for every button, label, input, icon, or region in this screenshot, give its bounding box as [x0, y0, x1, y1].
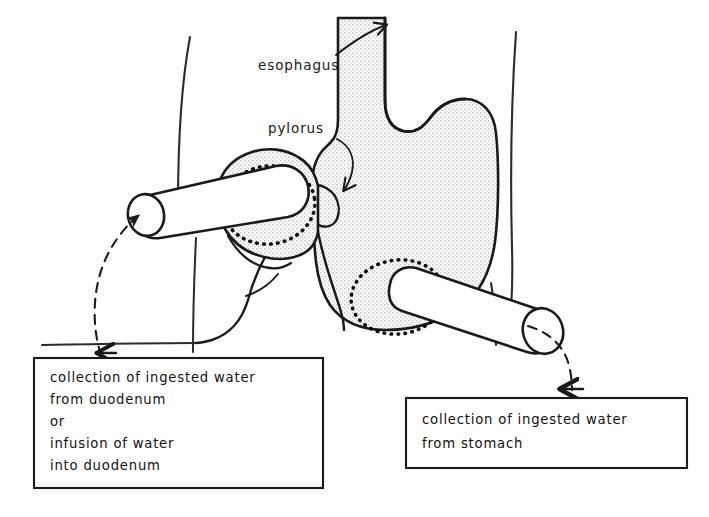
duodenum-callout-line-1: collection of ingested water	[50, 370, 256, 385]
duodenum-callout-connector	[95, 216, 138, 370]
duodenum-callout-line-3: or	[50, 414, 65, 429]
duodenum-callout-box[interactable]: collection of ingested water from duoden…	[34, 358, 323, 488]
duodenum-callout-line-5: into duodenum	[50, 458, 161, 473]
stomach-callout-line-1: collection of ingested water	[422, 412, 628, 427]
duodenum-callout-line-2: from duodenum	[50, 392, 166, 407]
duodenum-callout-line-4: infusion of water	[50, 436, 174, 451]
esophagus-label: esophagus	[258, 57, 339, 73]
duodenum-connector-line	[95, 216, 138, 370]
stomach-callout-box-frame	[406, 398, 687, 468]
abdominal-wall-lower-left	[42, 238, 196, 352]
anatomical-diagram: esophagus pylorus collection of ingested…	[0, 0, 709, 517]
stomach-callout-line-2: from stomach	[422, 436, 523, 451]
stomach-callout-box[interactable]: collection of ingested water from stomac…	[406, 398, 687, 468]
pylorus-label: pylorus	[268, 120, 324, 136]
